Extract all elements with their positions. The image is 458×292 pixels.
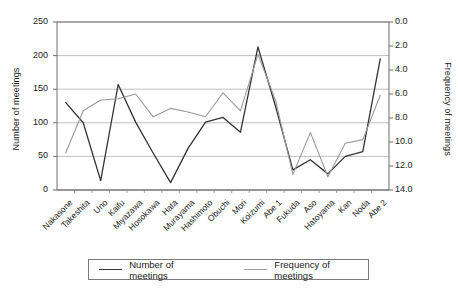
chart-legend: Number of meetingsFrequency of meetings	[88, 259, 369, 280]
legend-line-swatch	[99, 269, 122, 270]
legend-line-swatch	[244, 269, 267, 270]
legend-item-0[interactable]: Number of meetings	[89, 260, 212, 279]
legend-item-1[interactable]: Frequency of meetings	[234, 260, 368, 279]
chart-container: Number of meetings Frequency of meetings…	[0, 0, 458, 292]
series-line-number-of-meetings	[66, 47, 381, 183]
legend-label: Number of meetings	[129, 259, 212, 281]
legend-label: Frequency of meetings	[274, 259, 368, 281]
plot-area	[0, 0, 458, 292]
